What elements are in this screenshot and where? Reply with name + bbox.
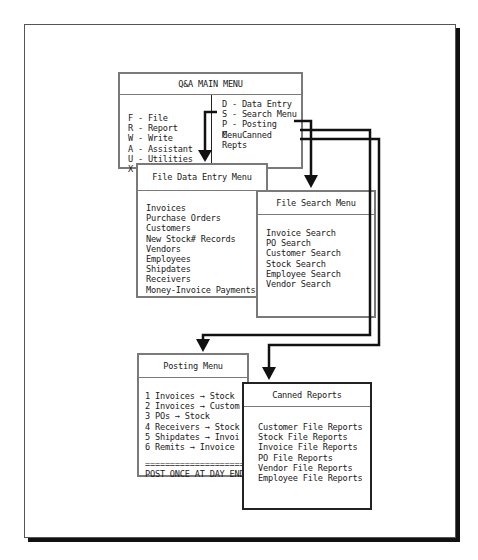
menu-item-assistant[interactable]: A - Assistant: [128, 144, 193, 154]
posting-menu-box: Posting Menu 1 Invoices → Stock 2 Invoic…: [137, 353, 249, 477]
list-item[interactable]: Vendors: [146, 244, 266, 254]
menu-item-file[interactable]: F - File: [128, 113, 193, 123]
list-item[interactable]: 3 POs → Stock: [145, 411, 247, 421]
list-item[interactable]: PO File Reports: [258, 453, 370, 463]
list-item[interactable]: Employee File Reports: [258, 473, 370, 483]
main-menu-box: Q&A MAIN MENU F - File R - Report W - Wr…: [118, 72, 303, 169]
menu-item-data-entry[interactable]: D - Data Entry: [222, 99, 301, 109]
list-item[interactable]: Stock Search: [266, 259, 374, 269]
main-menu-right-column: D - Data Entry S - Search Menu P - Posti…: [222, 99, 301, 140]
search-menu-title: File Search Menu: [258, 192, 374, 215]
list-item[interactable]: Invoices: [146, 203, 266, 213]
frame-shadow: [456, 28, 460, 542]
list-item[interactable]: 2 Invoices → Custom: [145, 401, 247, 411]
list-item[interactable]: Money-Invoice Payments: [146, 285, 266, 295]
list-item[interactable]: Customer File Reports: [258, 422, 370, 432]
list-item[interactable]: 4 Receivers → Stock: [145, 422, 247, 432]
canned-reports-title: Canned Reports: [244, 384, 370, 407]
posting-footer-note: POST ONCE AT DAY END: [145, 469, 247, 479]
list-item[interactable]: Invoice File Reports: [258, 442, 370, 452]
list-item[interactable]: 1 Invoices → Stock: [145, 391, 247, 401]
list-item[interactable]: Purchase Orders: [146, 213, 266, 223]
posting-menu-items: 1 Invoices → Stock 2 Invoices → Custom 3…: [139, 378, 247, 480]
list-item[interactable]: Receivers: [146, 274, 266, 284]
column-divider: [211, 95, 212, 169]
data-entry-menu-box: File Data Entry Menu Invoices Purchase O…: [136, 163, 268, 298]
search-menu-items: Invoice Search PO Search Customer Search…: [258, 215, 374, 289]
list-item[interactable]: Customers: [146, 223, 266, 233]
canned-reports-box: Canned Reports Customer File Reports Sto…: [242, 382, 372, 510]
data-entry-menu-title: File Data Entry Menu: [138, 165, 266, 191]
separator-line: ======================: [145, 459, 247, 469]
menu-item-report[interactable]: R - Report: [128, 123, 193, 133]
list-item[interactable]: Employee Search: [266, 269, 374, 279]
menu-item-posting-menu[interactable]: P - Posting Menu: [222, 119, 301, 129]
list-item[interactable]: Stock File Reports: [258, 432, 370, 442]
list-item[interactable]: Employees: [146, 254, 266, 264]
list-item[interactable]: Customer Search: [266, 248, 374, 258]
list-item[interactable]: PO Search: [266, 238, 374, 248]
list-item[interactable]: Vendor File Reports: [258, 463, 370, 473]
list-item[interactable]: 6 Remits → Invoice: [145, 442, 247, 452]
list-item[interactable]: Vendor Search: [266, 279, 374, 289]
posting-menu-title: Posting Menu: [139, 355, 247, 378]
list-item[interactable]: New Stock# Records: [146, 234, 266, 244]
menu-item-search-menu[interactable]: S - Search Menu: [222, 109, 301, 119]
list-item[interactable]: Invoice Search: [266, 228, 374, 238]
main-menu-title: Q&A MAIN MENU: [120, 74, 301, 95]
canned-reports-items: Customer File Reports Stock File Reports…: [244, 407, 370, 483]
menu-item-canned-repts[interactable]: C - Canned Repts: [222, 130, 301, 140]
data-entry-menu-items: Invoices Purchase Orders Customers New S…: [138, 191, 266, 295]
list-item[interactable]: Shipdates: [146, 264, 266, 274]
frame-shadow: [28, 538, 460, 542]
menu-item-write[interactable]: W - Write: [128, 133, 193, 143]
list-item[interactable]: 5 Shipdates → Invoi: [145, 432, 247, 442]
search-menu-box: File Search Menu Invoice Search PO Searc…: [256, 190, 376, 318]
